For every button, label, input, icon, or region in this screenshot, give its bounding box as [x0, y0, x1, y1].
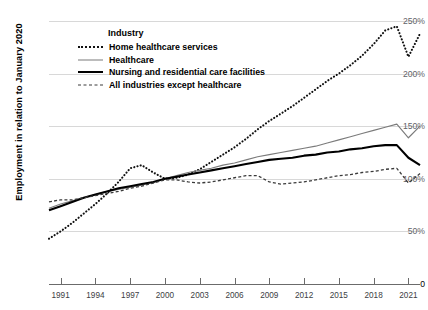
dashed-line-icon: [78, 80, 103, 90]
chart-title-clipped: [0, 0, 425, 3]
y-axis-label: Employment in relation to January 2020: [14, 0, 24, 227]
dotted-line-icon: [78, 42, 103, 52]
solid-thick-line-icon: [78, 67, 103, 77]
chart-legend: Industry Home healthcare servicesHealthc…: [78, 28, 265, 91]
legend-item-label: All industries except healthcare: [109, 80, 242, 90]
solid-thin-line-icon: [78, 55, 103, 65]
legend-item-label: Nursing and residential care facilities: [109, 67, 265, 77]
legend-item-label: Home healthcare services: [109, 42, 218, 52]
y-tick-label: 0: [381, 279, 425, 289]
legend-item[interactable]: Nursing and residential care facilities: [78, 66, 265, 79]
x-axis-line: [49, 284, 420, 285]
legend-item[interactable]: Home healthcare services: [78, 41, 265, 54]
legend-title: Industry: [108, 28, 265, 38]
legend-item[interactable]: Healthcare: [78, 54, 265, 67]
legend-item[interactable]: All industries except healthcare: [78, 79, 265, 92]
x-tick-label: 2021: [388, 291, 428, 300]
legend-item-label: Healthcare: [109, 55, 154, 65]
